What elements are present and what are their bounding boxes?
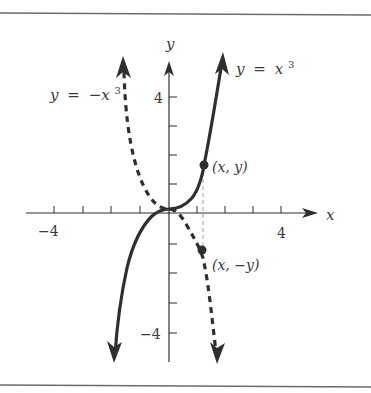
x-axis-label: x [326,206,335,224]
point-lower-dot [198,246,207,255]
curve-y-equals-neg-x-cubed [116,56,225,364]
y-axis: y 4 −4 [140,35,177,362]
dashed-curve-bottom-arrow-icon [210,342,225,364]
y-tick-label-4: 4 [154,90,163,106]
cubic-reflection-diagram: x −4 4 y 4 −4 [0,0,371,393]
x-axis: x −4 4 [26,206,335,241]
y-tick-label-neg4: −4 [140,326,161,342]
top-rule [0,13,371,15]
bottom-rule [0,385,371,387]
point-upper-dot [200,161,209,170]
x-tick-label-neg4: −4 [38,223,59,239]
y-axis-ticks [169,97,177,333]
point-lower-label: (x, −y) [212,257,259,273]
dashed-curve-label: y = −x 3 [49,85,121,104]
y-axis-label: y [165,35,175,53]
point-upper-label: (x, y) [212,159,248,175]
solid-curve-label: y = x 3 [235,59,294,78]
x-tick-label-4: 4 [277,225,286,241]
